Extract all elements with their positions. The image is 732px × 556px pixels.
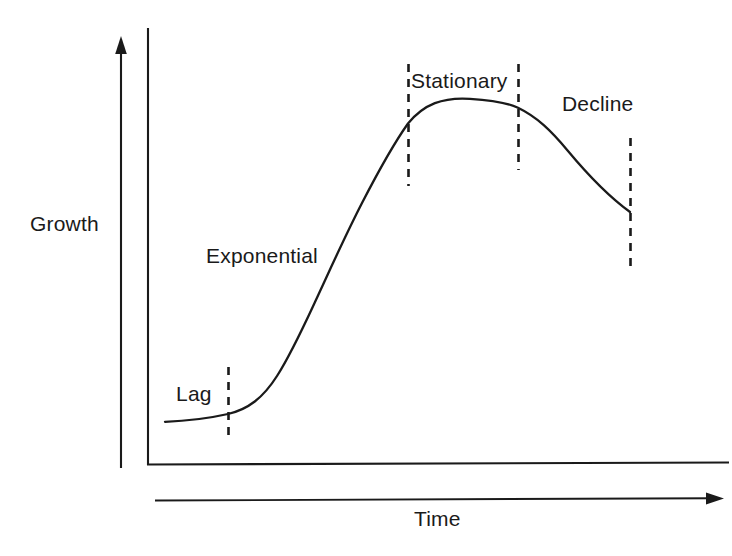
growth-direction-arrow <box>115 36 127 468</box>
x-axis-line <box>147 463 729 465</box>
time-direction-arrow <box>155 493 724 505</box>
y-axis-label: Growth <box>30 212 99 236</box>
growth-curve-svg <box>0 0 732 556</box>
phase-label-exponential: Exponential <box>206 244 318 268</box>
phase-label-decline: Decline <box>562 92 633 116</box>
phase-label-stationary: Stationary <box>411 69 508 93</box>
x-axis-label: Time <box>414 507 461 531</box>
phase-label-lag: Lag <box>176 382 212 406</box>
growth-curve-figure: Growth Lag Exponential Stationary Declin… <box>0 0 732 556</box>
